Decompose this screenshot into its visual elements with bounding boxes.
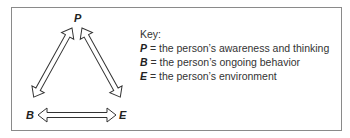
key-item-p: P = the person’s awareness and thinking <box>140 41 329 55</box>
double-arrow-p-e-icon <box>76 25 127 101</box>
key-item-e: E = the person’s environment <box>140 69 329 83</box>
double-arrow-b-e-icon <box>38 108 116 122</box>
node-e: E <box>119 109 126 121</box>
double-arrow-p-b-icon <box>28 25 79 101</box>
node-p: P <box>74 12 81 24</box>
key-legend: Key: P = the person’s awareness and thin… <box>140 27 329 83</box>
node-b: B <box>26 109 34 121</box>
key-item-b: B = the person’s ongoing behavior <box>140 55 329 69</box>
key-title: Key: <box>140 27 329 41</box>
